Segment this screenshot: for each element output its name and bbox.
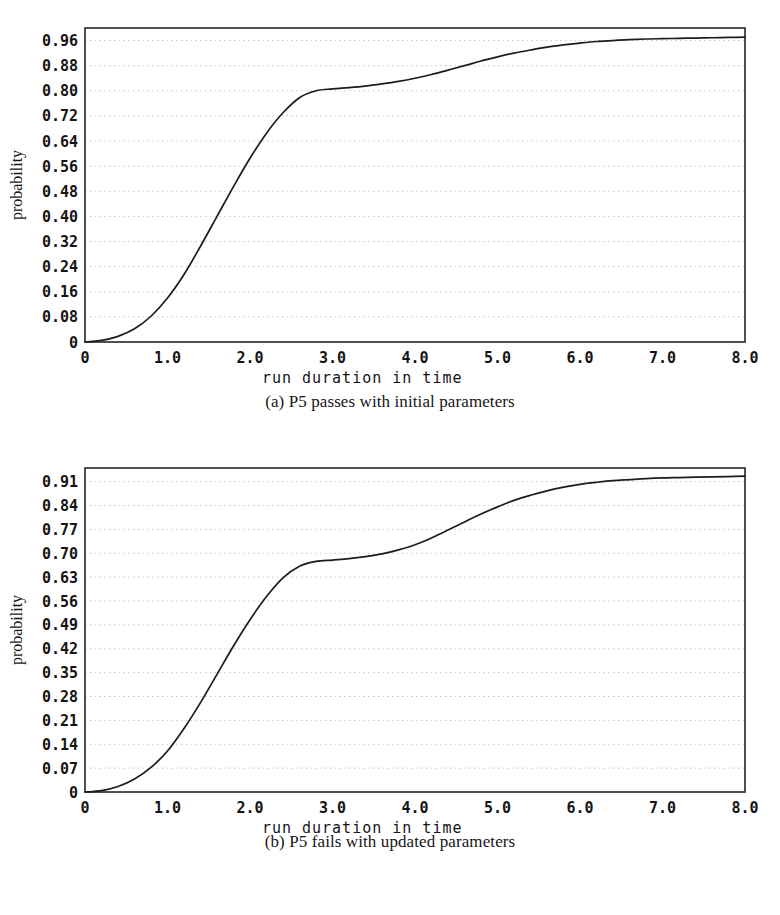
chart-svg-a: 00.080.160.240.320.400.480.560.640.720.8… bbox=[0, 0, 780, 390]
x-tick-label: 3.0 bbox=[319, 349, 346, 367]
chart-svg-b: 00.070.140.210.280.350.420.490.560.630.7… bbox=[0, 440, 780, 840]
y-tick-label: 0.96 bbox=[42, 32, 78, 50]
x-axis-title: run duration in time bbox=[262, 369, 463, 387]
x-tick-label: 8.0 bbox=[731, 349, 758, 367]
figure-container: 00.080.160.240.320.400.480.560.640.720.8… bbox=[0, 0, 780, 915]
y-tick-label: 0.63 bbox=[42, 569, 78, 587]
x-axis-title: run duration in time bbox=[262, 819, 463, 837]
x-tick-label: 1.0 bbox=[154, 799, 181, 817]
x-tick-label: 4.0 bbox=[401, 349, 428, 367]
y-tick-label: 0.42 bbox=[42, 640, 78, 658]
x-tick-label: 1.0 bbox=[154, 349, 181, 367]
x-tick-label: 7.0 bbox=[649, 349, 676, 367]
plot-area-b: 00.070.140.210.280.350.420.490.560.630.7… bbox=[0, 440, 780, 830]
y-tick-label: 0 bbox=[69, 784, 78, 802]
y-tick-label: 0.70 bbox=[42, 545, 78, 563]
x-tick-label: 6.0 bbox=[566, 349, 593, 367]
x-tick-label: 0 bbox=[80, 349, 89, 367]
x-tick-label: 5.0 bbox=[484, 799, 511, 817]
y-tick-label: 0.77 bbox=[42, 521, 78, 539]
x-tick-label: 3.0 bbox=[319, 799, 346, 817]
x-tick-label: 8.0 bbox=[731, 799, 758, 817]
plot-area-a: 00.080.160.240.320.400.480.560.640.720.8… bbox=[0, 0, 780, 390]
x-tick-label: 7.0 bbox=[649, 799, 676, 817]
y-tick-label: 0.35 bbox=[42, 664, 78, 682]
x-tick-label: 6.0 bbox=[566, 799, 593, 817]
y-tick-label: 0.64 bbox=[42, 133, 78, 151]
y-tick-label: 0.48 bbox=[42, 183, 78, 201]
y-tick-label: 0.21 bbox=[42, 712, 78, 730]
plot-frame bbox=[85, 28, 745, 342]
y-tick-label: 0 bbox=[69, 334, 78, 352]
x-tick-label: 4.0 bbox=[401, 799, 428, 817]
y-tick-label: 0.24 bbox=[42, 258, 78, 276]
data-series-line bbox=[85, 476, 745, 792]
y-tick-label: 0.56 bbox=[42, 593, 78, 611]
y-tick-label: 0.72 bbox=[42, 107, 78, 125]
chart-panel-a: 00.080.160.240.320.400.480.560.640.720.8… bbox=[0, 0, 780, 445]
y-tick-label: 0.07 bbox=[42, 760, 78, 778]
y-tick-label: 0.88 bbox=[42, 57, 78, 75]
chart-panel-b: 00.070.140.210.280.350.420.490.560.630.7… bbox=[0, 440, 780, 915]
x-tick-label: 5.0 bbox=[484, 349, 511, 367]
figure-caption-a: (a) P5 passes with initial parameters bbox=[0, 392, 780, 412]
y-axis-title: probability bbox=[8, 150, 26, 220]
y-tick-label: 0.16 bbox=[42, 283, 78, 301]
y-tick-label: 0.08 bbox=[42, 308, 78, 326]
x-tick-label: 2.0 bbox=[236, 799, 263, 817]
plot-frame bbox=[85, 468, 745, 792]
x-tick-label: 0 bbox=[80, 799, 89, 817]
y-tick-label: 0.28 bbox=[42, 688, 78, 706]
x-tick-label: 2.0 bbox=[236, 349, 263, 367]
y-tick-label: 0.56 bbox=[42, 158, 78, 176]
y-axis-title: probability bbox=[8, 595, 26, 665]
y-tick-label: 0.32 bbox=[42, 233, 78, 251]
y-tick-label: 0.80 bbox=[42, 82, 78, 100]
y-tick-label: 0.14 bbox=[42, 736, 78, 754]
y-tick-label: 0.91 bbox=[42, 473, 78, 491]
y-tick-label: 0.84 bbox=[42, 497, 78, 515]
y-tick-label: 0.40 bbox=[42, 208, 78, 226]
y-tick-label: 0.49 bbox=[42, 616, 78, 634]
data-series-line bbox=[85, 37, 745, 342]
